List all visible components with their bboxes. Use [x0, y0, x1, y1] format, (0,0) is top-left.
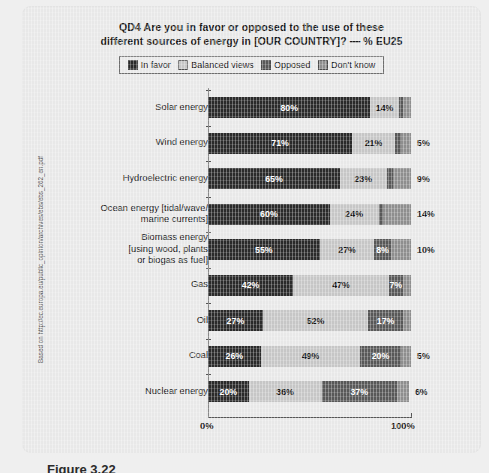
category-label: Nuclear energy — [145, 386, 208, 398]
bar-segment-value: 60% — [260, 209, 278, 219]
bar-segment-dont-know[interactable] — [397, 381, 409, 402]
y-axis-tick — [206, 303, 211, 304]
bar-segment-value: 20% — [372, 351, 390, 361]
bar-segment-in-favor[interactable]: 55% — [208, 239, 320, 260]
category-label-line: marine currents] — [101, 214, 209, 226]
bar-segment-value: 21% — [365, 138, 383, 148]
bar-segment-in-favor[interactable]: 80% — [208, 97, 370, 118]
bar-segment-in-favor[interactable]: 71% — [208, 133, 352, 154]
chart-title-line-1: QD4 Are you in favor or opposed to the u… — [22, 20, 481, 34]
bar-segment-dont-know[interactable] — [403, 275, 411, 296]
category-label-line: Biomass energy — [128, 232, 208, 244]
bar-segment-in-favor[interactable]: 42% — [208, 275, 293, 296]
category-label-line: Hydroelectric energy — [123, 173, 208, 185]
bar-segment-opposed[interactable]: 20% — [360, 346, 401, 367]
bar-outside-value: 9% — [417, 168, 430, 189]
bar-segment-value: 8% — [376, 245, 389, 255]
category-label: Solar energy — [155, 102, 208, 114]
chart-row: Coal26%49%20%5% — [22, 346, 481, 367]
bar-outside-value: 14% — [417, 204, 435, 225]
stacked-bar[interactable]: 27%52%17% — [208, 310, 411, 331]
stacked-bar[interactable]: 20%36%37% — [208, 381, 409, 402]
bar-segment-balanced-views[interactable]: 52% — [263, 310, 369, 331]
legend-label: Balanced views — [191, 60, 254, 70]
category-label-line: Wind energy — [156, 137, 208, 149]
category-label: Coal — [189, 350, 208, 362]
category-label-line: Solar energy — [155, 102, 208, 114]
category-label-line: or biogas as fuel] — [128, 255, 208, 267]
y-axis-tick — [206, 232, 211, 233]
bar-outside-value: 5% — [417, 346, 430, 367]
source-note: Based on http://ec.europa.eu/public_opin… — [37, 150, 44, 370]
bar-outside-value: 5% — [417, 133, 430, 154]
bar-segment-value: 27% — [227, 316, 245, 326]
stacked-bar[interactable]: 65%23% — [208, 168, 411, 189]
bar-segment-balanced-views[interactable]: 14% — [370, 97, 398, 118]
category-label-line: Ocean energy [tidal/wave/ — [101, 203, 209, 215]
bar-segment-value: 71% — [271, 138, 289, 148]
stacked-bar[interactable]: 80%14% — [208, 97, 411, 118]
bar-segment-balanced-views[interactable]: 47% — [293, 275, 388, 296]
bar-segment-in-favor[interactable]: 65% — [208, 168, 340, 189]
bar-segment-balanced-views[interactable]: 23% — [340, 168, 387, 189]
stacked-bar[interactable]: 42%47%7% — [208, 275, 411, 296]
stacked-bar[interactable]: 26%49%20% — [208, 346, 411, 367]
bar-segment-value: 23% — [354, 174, 372, 184]
legend-swatch-icon — [178, 60, 188, 70]
bar-segment-value: 14% — [376, 103, 394, 113]
figure-caption: Figure 3.22 — [47, 462, 116, 473]
category-label: Wind energy — [156, 137, 208, 149]
category-label: Ocean energy [tidal/wave/marine currents… — [101, 203, 209, 226]
chart-row: Gas42%47%7% — [22, 275, 481, 296]
bar-segment-in-favor[interactable]: 20% — [208, 381, 249, 402]
bar-segment-dont-know[interactable] — [401, 346, 411, 367]
bar-segment-value: 42% — [242, 280, 260, 290]
bar-segment-balanced-views[interactable]: 24% — [330, 204, 379, 225]
category-label-line: [using wood, plants — [128, 244, 208, 256]
stacked-bar[interactable]: 60%24% — [208, 204, 411, 225]
y-axis-tick — [206, 339, 211, 340]
bar-segment-balanced-views[interactable]: 36% — [249, 381, 322, 402]
bar-segment-dont-know[interactable] — [403, 97, 411, 118]
category-label: Oil — [197, 315, 208, 327]
chart-row: Nuclear energy20%36%37%6% — [22, 381, 481, 402]
bar-segment-opposed[interactable]: 17% — [368, 310, 403, 331]
x-axis-tick-0 — [208, 413, 209, 418]
bar-segment-value: 7% — [389, 280, 402, 290]
stacked-bar[interactable]: 71%21% — [208, 133, 411, 154]
bar-segment-dont-know[interactable] — [393, 168, 411, 189]
bar-segment-value: 49% — [302, 351, 320, 361]
bar-segment-balanced-views[interactable]: 27% — [320, 239, 375, 260]
y-axis-tick — [206, 126, 211, 127]
bar-segment-opposed[interactable]: 37% — [322, 381, 397, 402]
y-axis-tick — [206, 374, 211, 375]
legend-item-1: Balanced views — [178, 60, 254, 70]
x-axis-line — [208, 417, 412, 418]
bar-segment-opposed[interactable]: 7% — [389, 275, 403, 296]
stacked-bar[interactable]: 55%27%8% — [208, 239, 411, 260]
bar-segment-value: 55% — [255, 245, 273, 255]
category-label-line: Oil — [197, 315, 208, 327]
bar-segment-balanced-views[interactable]: 21% — [352, 133, 395, 154]
bar-segment-value: 52% — [307, 316, 325, 326]
y-axis-tick — [206, 90, 211, 91]
bar-segment-value: 65% — [265, 174, 283, 184]
chart-row: Ocean energy [tidal/wave/marine currents… — [22, 204, 481, 225]
category-label: Biomass energy[using wood, plantsor biog… — [128, 232, 208, 267]
bar-segment-value: 26% — [226, 351, 244, 361]
y-axis-tick — [206, 197, 211, 198]
bar-segment-in-favor[interactable]: 60% — [208, 204, 330, 225]
bar-segment-in-favor[interactable]: 26% — [208, 346, 261, 367]
legend-label: Opposed — [274, 60, 311, 70]
chart-row: Wind energy71%21%5% — [22, 133, 481, 154]
bar-segment-dont-know[interactable] — [383, 204, 411, 225]
bar-segment-dont-know[interactable] — [391, 239, 411, 260]
bar-outside-value: 10% — [417, 239, 435, 260]
bar-segment-balanced-views[interactable]: 49% — [261, 346, 360, 367]
bar-segment-opposed[interactable]: 8% — [374, 239, 390, 260]
bar-segment-value: 80% — [280, 103, 298, 113]
bar-segment-dont-know[interactable] — [401, 133, 411, 154]
bar-segment-dont-know[interactable] — [403, 310, 411, 331]
bar-segment-value: 27% — [338, 245, 356, 255]
bar-segment-in-favor[interactable]: 27% — [208, 310, 263, 331]
